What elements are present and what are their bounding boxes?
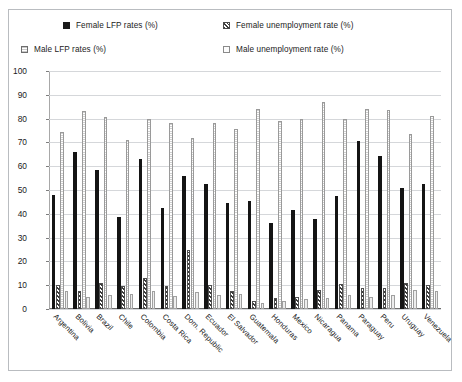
bar-maleun <box>369 297 373 309</box>
bar-maleun <box>108 295 112 309</box>
bar-group <box>354 71 376 309</box>
bar-malelfp <box>234 129 238 309</box>
bar-femun <box>187 250 191 310</box>
bar-group <box>93 71 115 309</box>
bar-maleun <box>391 295 395 309</box>
bar-malelfp <box>300 119 304 309</box>
bar-malelfp <box>278 121 282 309</box>
bar-group <box>289 71 311 309</box>
bar-malelfp <box>82 111 86 309</box>
bar-malelfp <box>343 119 347 309</box>
legend-swatch-female-unemployment-icon <box>223 22 230 29</box>
legend-swatch-male-unemployment-icon <box>223 46 230 53</box>
bar-group <box>201 71 223 309</box>
legend-item-male-unemployment: Male unemployment rate (%) <box>223 45 344 54</box>
bar-femun <box>426 285 430 309</box>
bar-femlfp <box>422 184 426 309</box>
bar-femlfp <box>291 210 295 309</box>
bar-malelfp <box>60 132 64 309</box>
y-tick-label: 20 <box>1 256 27 266</box>
bar-malelfp <box>409 134 413 309</box>
legend-item-male-lfp: Male LFP rates (%) <box>21 45 106 54</box>
y-tick-label: 10 <box>1 280 27 290</box>
x-axis-labels: ArgentinaBoliviaBrazilChileColombiaCosta… <box>49 310 441 382</box>
bar-femlfp <box>117 217 121 309</box>
bar-maleun <box>173 296 177 309</box>
bar-femun <box>252 301 256 309</box>
bar-femlfp <box>95 170 99 309</box>
y-tick-label: 70 <box>1 137 27 147</box>
bar-femlfp <box>182 176 186 309</box>
bar-femun <box>295 297 299 309</box>
bar-femun <box>99 283 103 309</box>
bar-maleun <box>217 295 221 309</box>
bar-femlfp <box>378 156 382 310</box>
bar-femlfp <box>161 208 165 309</box>
bar-malelfp <box>430 116 434 309</box>
bar-maleun <box>152 291 156 309</box>
y-tick-label: 40 <box>1 209 27 219</box>
bar-malelfp <box>387 110 391 309</box>
bar-maleun <box>261 303 265 309</box>
bar-femun <box>383 288 387 309</box>
bar-malelfp <box>169 123 173 309</box>
y-tick-label: 60 <box>1 161 27 171</box>
bar-group <box>180 71 202 309</box>
bar-femun <box>317 290 321 309</box>
bar-femun <box>339 284 343 309</box>
bar-femlfp <box>139 159 143 309</box>
bar-malelfp <box>104 117 108 309</box>
bar-femlfp <box>204 184 208 309</box>
bar-femun <box>165 286 169 309</box>
bar-group <box>71 71 93 309</box>
legend-label-female-lfp: Female LFP rates (%) <box>76 21 158 30</box>
bar-femlfp <box>248 201 252 309</box>
bar-maleun <box>65 291 69 309</box>
bar-malelfp <box>191 138 195 309</box>
bar-femun <box>78 291 82 309</box>
bar-malelfp <box>256 109 260 309</box>
legend-label-male-unemployment: Male unemployment rate (%) <box>236 45 344 54</box>
bar-maleun <box>326 298 330 309</box>
bar-malelfp <box>213 123 217 309</box>
bar-maleun <box>239 294 243 309</box>
bar-femlfp <box>400 188 404 309</box>
legend-swatch-female-lfp-icon <box>63 22 70 29</box>
x-axis-label: Peru <box>378 312 396 330</box>
y-tick-label: 100 <box>1 66 27 76</box>
y-tick-label: 90 <box>1 90 27 100</box>
bar-femlfp <box>52 195 56 309</box>
bar-femun <box>274 298 278 309</box>
bar-group <box>267 71 289 309</box>
x-axis-label: Chile <box>117 312 136 331</box>
legend-label-male-lfp: Male LFP rates (%) <box>34 45 106 54</box>
bar-femun <box>230 291 234 309</box>
y-tick-label: 0 <box>1 304 27 314</box>
bar-maleun <box>304 299 308 309</box>
bar-malelfp <box>126 140 130 309</box>
bar-group <box>397 71 419 309</box>
bar-femlfp <box>313 219 317 309</box>
bar-maleun <box>435 291 439 309</box>
chart-container: Female LFP rates (%) Female unemployment… <box>8 9 452 371</box>
bar-femun <box>208 285 212 309</box>
bar-malelfp <box>147 119 151 309</box>
bar-group <box>136 71 158 309</box>
bar-femlfp <box>226 203 230 309</box>
bar-group <box>245 71 267 309</box>
bar-maleun <box>195 292 199 309</box>
plot-area <box>49 71 441 309</box>
chart-legend: Female LFP rates (%) Female unemployment… <box>9 16 451 68</box>
bar-maleun <box>413 290 417 309</box>
bar-femun <box>56 285 60 309</box>
legend-swatch-male-lfp-icon <box>21 46 28 53</box>
bar-group <box>158 71 180 309</box>
bar-femlfp <box>73 152 77 309</box>
x-axis-label: Venezuela <box>422 312 454 344</box>
bar-group <box>332 71 354 309</box>
y-tick-label: 50 <box>1 185 27 195</box>
bar-maleun <box>86 297 90 309</box>
bar-femun <box>404 283 408 309</box>
bar-femlfp <box>269 223 273 309</box>
bar-femun <box>121 286 125 309</box>
